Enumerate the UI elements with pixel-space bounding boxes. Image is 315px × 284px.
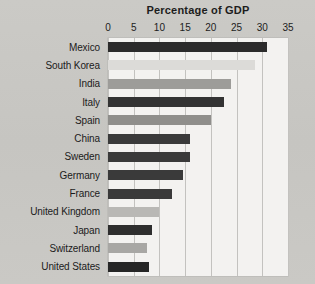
bar-row <box>108 111 288 129</box>
x-tick-label: 30 <box>257 22 268 33</box>
bar-chart-figure: Percentage of GDP 05101520253035 MexicoS… <box>0 0 315 284</box>
category-row: Italy <box>0 93 104 111</box>
category-row: Mexico <box>0 38 104 56</box>
category-row: Spain <box>0 111 104 129</box>
category-label: Germany <box>60 170 100 181</box>
category-label: France <box>69 188 100 199</box>
bar <box>108 207 159 217</box>
bar-row <box>108 129 288 147</box>
category-label: United States <box>41 261 100 272</box>
bar-row <box>108 184 288 202</box>
category-label: Spain <box>75 115 100 126</box>
category-label: Japan <box>73 225 100 236</box>
x-tick-label: 20 <box>205 22 216 33</box>
bar <box>108 262 149 272</box>
plot-area <box>108 38 288 276</box>
chart-title: Percentage of GDP <box>108 4 288 16</box>
bar-row <box>108 166 288 184</box>
bar <box>108 79 231 89</box>
category-row: United Kingdom <box>0 203 104 221</box>
category-label: China <box>74 133 100 144</box>
category-row: United States <box>0 258 104 276</box>
category-row: Sweden <box>0 148 104 166</box>
x-tick-label: 10 <box>154 22 165 33</box>
category-label: Switzerland <box>49 243 100 254</box>
bar-row <box>108 203 288 221</box>
category-label: Italy <box>82 97 100 108</box>
bar <box>108 42 267 52</box>
x-tick-label: 15 <box>180 22 191 33</box>
x-tick-label: 0 <box>105 22 111 33</box>
bar <box>108 189 172 199</box>
bar <box>108 97 224 107</box>
bar <box>108 60 255 70</box>
gridline <box>288 38 289 276</box>
bar-row <box>108 75 288 93</box>
category-label: United Kingdom <box>30 206 100 217</box>
bar-row <box>108 93 288 111</box>
category-label: India <box>79 78 100 89</box>
bar-row <box>108 239 288 257</box>
category-label: Sweden <box>64 151 100 162</box>
bar-row <box>108 56 288 74</box>
category-row: Japan <box>0 221 104 239</box>
category-row: Switzerland <box>0 239 104 257</box>
category-row: India <box>0 75 104 93</box>
bars-layer <box>108 38 288 276</box>
x-tick-label: 25 <box>231 22 242 33</box>
bar <box>108 134 190 144</box>
bar <box>108 152 190 162</box>
bar-row <box>108 38 288 56</box>
category-row: China <box>0 129 104 147</box>
bar-row <box>108 148 288 166</box>
x-tick-label: 5 <box>131 22 137 33</box>
bar-row <box>108 221 288 239</box>
bar <box>108 170 183 180</box>
bar <box>108 225 152 235</box>
x-axis-tick-labels: 05101520253035 <box>108 22 284 36</box>
y-axis-category-labels: MexicoSouth KoreaIndiaItalySpainChinaSwe… <box>0 38 104 276</box>
bar <box>108 115 211 125</box>
bar-row <box>108 258 288 276</box>
category-row: France <box>0 184 104 202</box>
bar <box>108 243 147 253</box>
category-row: Germany <box>0 166 104 184</box>
category-row: South Korea <box>0 56 104 74</box>
category-label: Mexico <box>69 42 100 53</box>
x-tick-label: 35 <box>282 22 293 33</box>
category-label: South Korea <box>46 60 101 71</box>
